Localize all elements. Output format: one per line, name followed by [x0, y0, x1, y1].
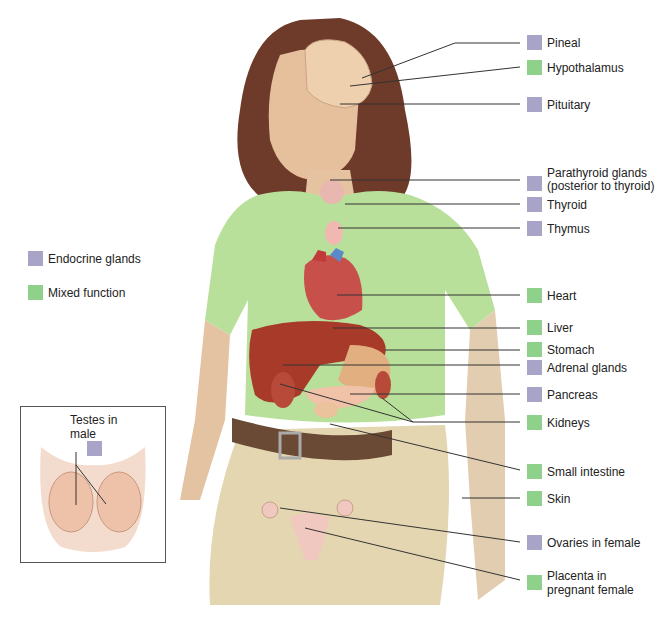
label-liver: Liver	[547, 321, 573, 335]
label-heart: Heart	[547, 289, 576, 303]
inset-title-line2: male	[70, 427, 96, 441]
label-stomach: Stomach	[547, 343, 594, 357]
label-skin: Skin	[547, 492, 570, 506]
label-parathyroid: Parathyroid glands	[547, 166, 647, 180]
label-pancreas: Pancreas	[547, 388, 598, 402]
label-placenta-note: pregnant female	[547, 583, 634, 597]
label-pituitary: Pituitary	[547, 98, 590, 112]
right-arm	[465, 310, 505, 600]
label-ovaries: Ovaries in female	[547, 536, 640, 550]
swatch-pineal	[527, 35, 542, 50]
legend-mixed-swatch	[28, 285, 43, 300]
inset-title-line1: Testes in	[70, 413, 117, 427]
label-thyroid: Thyroid	[547, 198, 587, 212]
swatch-stomach	[527, 342, 542, 357]
label-thymus: Thymus	[547, 222, 590, 236]
swatch-ovaries	[527, 535, 542, 550]
swatch-heart	[527, 288, 542, 303]
label-placenta: Placenta in	[547, 569, 606, 583]
swatch-adrenal	[527, 360, 542, 375]
swatch-testes	[87, 441, 102, 456]
swatch-skin	[527, 491, 542, 506]
legend-mixed-label: Mixed function	[48, 286, 125, 300]
swatch-pancreas	[527, 387, 542, 402]
label-hypothalamus: Hypothalamus	[547, 61, 624, 75]
swatch-liver	[527, 320, 542, 335]
label-kidneys: Kidneys	[547, 416, 590, 430]
testes-inset: Testes in male	[20, 406, 166, 563]
legend-endocrine-swatch	[28, 251, 43, 266]
swatch-thyroid	[527, 197, 542, 212]
legend-endocrine-label: Endocrine glands	[48, 252, 141, 266]
swatch-parathyroid	[527, 176, 542, 191]
label-parathyroid-note: (posterior to thyroid)	[547, 179, 654, 193]
swatch-pituitary	[527, 97, 542, 112]
swatch-hypothalamus	[527, 60, 542, 75]
swatch-small-intestine	[527, 464, 542, 479]
swatch-kidneys	[527, 415, 542, 430]
swatch-placenta	[527, 575, 542, 590]
left-arm	[180, 320, 230, 500]
label-adrenal: Adrenal glands	[547, 361, 627, 375]
label-pineal: Pineal	[547, 36, 580, 50]
label-small-intestine: Small intestine	[547, 465, 625, 479]
swatch-thymus	[527, 221, 542, 236]
